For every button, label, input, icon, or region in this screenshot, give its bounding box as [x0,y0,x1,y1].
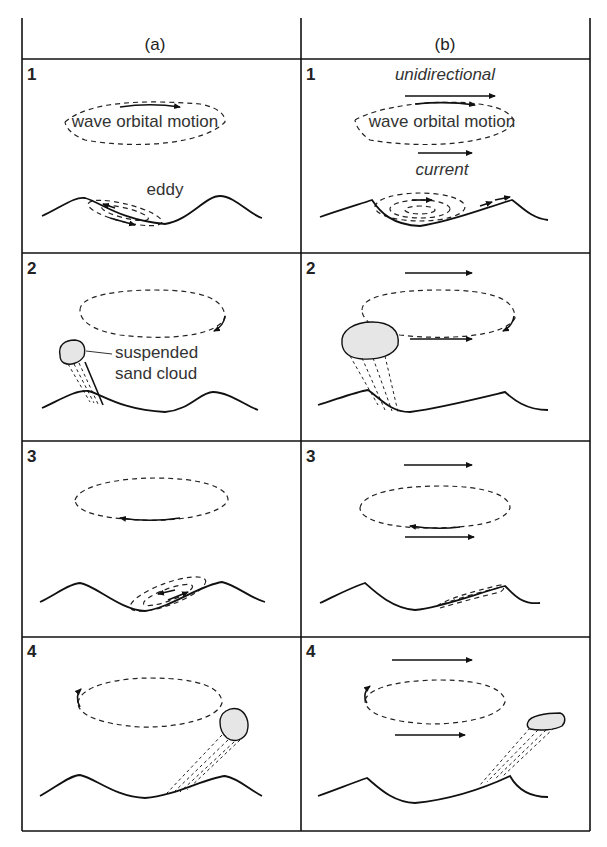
column-header-b: (b) [435,35,456,54]
unidirectional-label: unidirectional [395,65,496,84]
orbit-direction-arrow [415,103,475,105]
wave-orbit-ellipse [365,680,505,724]
sand-ripple-bed [320,200,548,226]
orbit-direction-arrow [77,689,81,707]
wave-orbit-ellipse [360,486,510,528]
panel-a4 [40,678,262,798]
sand-cloud [220,709,248,741]
sediment-trail [68,364,90,402]
wave-orbit-ellipse [80,290,225,337]
sediment-trail [173,740,228,793]
sand-ripple-bed [318,776,548,803]
step-number-a2: 2 [27,259,36,278]
sand-ripple-bed [320,583,540,610]
panel-b2 [318,273,548,412]
bedload-arrow-2 [495,197,510,200]
table-frame [22,18,590,831]
orbit-direction-arrow [120,518,180,520]
eddy-label: eddy [147,180,184,199]
ripple-vortex-diagram: (a) (b) 1 1 2 2 3 3 4 4 wave orbital mot… [0,0,607,847]
orbit-direction-arrow [214,316,225,331]
sediment-trail [487,730,538,782]
step-number-b3: 3 [306,447,315,466]
step-number-a3: 3 [27,447,36,466]
current-label: current [416,160,470,179]
orbit-direction-arrow [503,316,514,331]
step-number-a1: 1 [27,65,36,84]
wave-orbital-motion-label: wave orbital motion [368,112,515,131]
sand-cloud [60,340,85,364]
sand-ripple-bed [42,391,258,412]
sand-ripple-bed [42,196,262,224]
panel-a3 [40,478,265,618]
sand-ripple-bed [40,775,262,798]
sediment-trail-edge [85,362,103,405]
sand-ripple-bed [40,582,265,611]
suspended-label-line1: suspended [115,343,198,362]
sand-cloud [342,322,398,359]
step-number-b1: 1 [306,65,315,84]
panel-b1: unidirectional wave orbital motion curre… [320,65,548,226]
eddy-ellipse-inner [405,206,435,214]
wave-orbit-ellipse [78,678,222,727]
step-number-a4: 4 [27,642,37,661]
bedload-arrow-1 [480,202,492,206]
sediment-trail [187,740,240,790]
column-header-a: (a) [145,35,166,54]
panel-b4 [318,660,565,803]
sediment-trail [350,356,378,405]
leader-line [86,351,112,354]
wave-orbital-motion-label: wave orbital motion [71,112,218,131]
step-number-b4: 4 [306,642,316,661]
sand-cloud [527,713,564,730]
sediment-trail [180,742,234,792]
sediment-trail [74,364,94,403]
sediment-trail [503,728,554,776]
sediment-trail [495,730,546,779]
orbit-direction-arrow [120,105,180,107]
eddy-ellipse-mid [390,200,450,218]
orbit-direction-arrow [365,686,370,703]
panel-a2: suspended sand cloud [42,290,258,412]
suspended-label-line2: sand cloud [115,364,197,383]
wave-orbit-ellipse [75,478,228,520]
step-number-b2: 2 [306,259,315,278]
panel-a1: wave orbital motion eddy [42,102,262,231]
sand-ripple-bed [318,390,548,412]
eddy-arrow-forward [110,218,135,225]
eddy-ellipse-outer [86,195,164,231]
sediment-trail [480,728,530,785]
panel-b3 [320,465,540,610]
sediment-trail [373,358,392,411]
